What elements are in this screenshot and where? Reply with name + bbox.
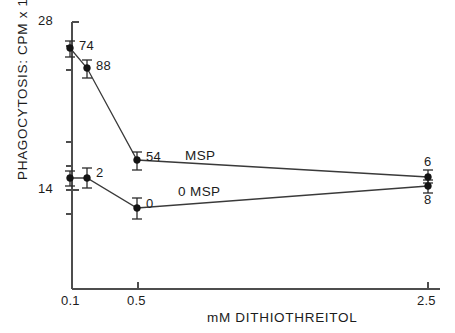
- x-tick-label-0-1: 0.1: [61, 294, 80, 307]
- x-tick-label-0-5: 0.5: [127, 294, 146, 307]
- point-label-8: 8: [424, 193, 431, 206]
- markers-0-msp: [67, 175, 432, 212]
- x-tick-label-2-5: 2.5: [417, 294, 436, 307]
- x-axis-ticks: [72, 282, 428, 289]
- series-label-msp: MSP: [185, 149, 215, 163]
- error-bars-msp: [65, 41, 433, 183]
- point-label-0: 0: [146, 197, 153, 210]
- point-label-2: 2: [96, 166, 103, 179]
- y-tick-label-14: 14: [38, 182, 53, 195]
- plot-canvas: [0, 0, 455, 333]
- markers-msp: [67, 45, 432, 181]
- series-label-0-msp: 0 MSP: [178, 185, 221, 199]
- error-bars-0-msp: [65, 168, 433, 219]
- point-label-54: 54: [146, 150, 161, 163]
- point-label-88: 88: [96, 59, 111, 72]
- series-line-0-msp: [70, 178, 428, 208]
- y-tick-label-28: 28: [38, 14, 53, 27]
- phagocytosis-dithiothreitol-chart: 28 14 0.1 0.5 2.5 74 88 54 2 0 6 8 MSP 0…: [0, 0, 455, 333]
- x-axis-title: mM DITHIOTHREITOL: [207, 311, 357, 325]
- series-line-msp: [70, 48, 428, 177]
- point-label-74: 74: [79, 39, 94, 52]
- point-label-6: 6: [424, 155, 431, 168]
